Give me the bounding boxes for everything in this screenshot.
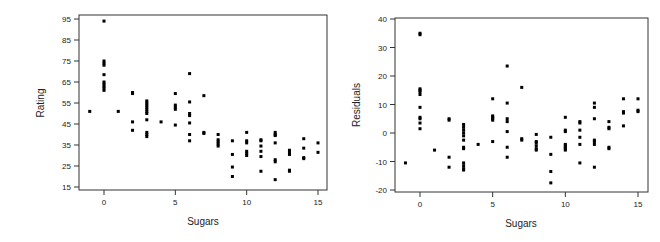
data-point [145, 112, 148, 115]
y-tick-label: -10 [375, 158, 387, 167]
x-tick-label: 5 [173, 198, 178, 207]
data-point [506, 117, 509, 120]
data-point [491, 140, 494, 143]
data-point [117, 110, 120, 113]
y-tick-label: 45 [62, 120, 71, 129]
data-point [549, 170, 552, 173]
rating-vs-sugars-plot: 152535455565758595 051015 Sugars Rating [0, 0, 330, 242]
data-point [274, 178, 277, 181]
y-tick-label: 85 [62, 36, 71, 45]
y-axis-title: Rating [35, 89, 46, 118]
data-point [202, 94, 205, 97]
data-point [607, 147, 610, 150]
data-point [259, 139, 262, 142]
y-tick-label: 65 [62, 78, 71, 87]
data-point [317, 151, 320, 154]
scatter-plot-right: -20-10010203040 051015 Sugars Residuals [330, 0, 660, 242]
data-point [274, 160, 277, 163]
data-points [404, 32, 640, 185]
data-point [433, 149, 436, 152]
data-point [491, 97, 494, 100]
data-point [462, 134, 465, 137]
data-point [145, 135, 148, 138]
x-tick-label: 0 [102, 198, 107, 207]
y-tick-label: -20 [375, 186, 387, 195]
data-point [259, 170, 262, 173]
data-point [520, 86, 523, 89]
data-point [302, 147, 305, 150]
data-point [245, 141, 248, 144]
data-point [549, 136, 552, 139]
data-point [462, 139, 465, 142]
data-point [302, 157, 305, 160]
data-point [491, 119, 494, 122]
data-point [245, 154, 248, 157]
y-tick-label: 25 [62, 162, 71, 171]
data-point [506, 146, 509, 149]
y-tick-label: 0 [383, 129, 388, 138]
data-point [419, 93, 422, 96]
x-tick-label: 10 [242, 198, 251, 207]
data-point [578, 136, 581, 139]
data-point [188, 114, 191, 117]
data-point [103, 89, 106, 92]
data-point [160, 120, 163, 123]
data-point [593, 166, 596, 169]
data-point [231, 139, 234, 142]
data-point [259, 145, 262, 148]
data-point [462, 164, 465, 167]
data-point [317, 141, 320, 144]
data-point [477, 143, 480, 146]
x-axis-title: Sugars [505, 218, 537, 229]
data-point [188, 121, 191, 124]
data-point [564, 130, 567, 133]
scatter-plot-left: 152535455565758595 051015 Sugars Rating [0, 0, 330, 242]
data-point [274, 134, 277, 137]
data-point [231, 175, 234, 178]
y-tick-label: 75 [62, 57, 71, 66]
data-point [578, 161, 581, 164]
y-tick-label: 55 [62, 99, 71, 108]
data-point [549, 181, 552, 184]
data-point [217, 133, 220, 136]
data-point [231, 153, 234, 156]
data-point [593, 117, 596, 120]
y-axis-ticks: 152535455565758595 [62, 15, 79, 192]
data-point [419, 122, 422, 125]
data-point [564, 116, 567, 119]
data-point [103, 73, 106, 76]
data-point [462, 161, 465, 164]
data-point [607, 127, 610, 130]
data-point [462, 132, 465, 135]
data-point [564, 149, 567, 152]
data-point [404, 161, 407, 164]
data-point [448, 166, 451, 169]
data-point [593, 106, 596, 109]
data-point [622, 112, 625, 115]
data-point [188, 100, 191, 103]
data-point [462, 169, 465, 172]
data-point [506, 130, 509, 133]
data-point [174, 124, 177, 127]
data-point [448, 156, 451, 159]
y-tick-label: 20 [378, 72, 387, 81]
data-point [462, 129, 465, 132]
data-point [622, 97, 625, 100]
y-tick-label: 10 [378, 101, 387, 110]
y-tick-label: 35 [62, 141, 71, 150]
data-points [88, 20, 319, 182]
data-point [535, 133, 538, 136]
data-point [217, 145, 220, 148]
x-tick-label: 10 [561, 200, 570, 209]
data-point [174, 92, 177, 95]
x-tick-label: 15 [314, 198, 323, 207]
data-point [535, 141, 538, 144]
data-point [448, 119, 451, 122]
y-tick-label: 30 [378, 44, 387, 53]
y-tick-label: 15 [62, 183, 71, 192]
y-tick-label: 95 [62, 15, 71, 24]
data-point [274, 141, 277, 144]
data-point [188, 72, 191, 75]
data-point [231, 166, 234, 169]
x-axis-ticks: 051015 [418, 192, 643, 209]
